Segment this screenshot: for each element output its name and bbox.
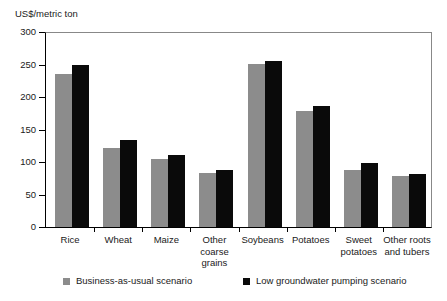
bar-business-as-usual [344, 170, 361, 227]
legend-label-low-groundwater-pumping: Low groundwater pumping scenario [256, 276, 407, 286]
bar-chart: US$/metric ton 050100150200250300 RiceWh… [0, 0, 447, 301]
y-axis-tick [39, 32, 45, 33]
y-axis-tick [39, 130, 45, 131]
bar-low-groundwater-pumping [72, 65, 89, 227]
bar-group [392, 32, 426, 227]
legend-swatch-icon-low-groundwater-pumping [243, 278, 250, 285]
y-axis-tick-label: 300 [3, 27, 36, 37]
y-axis-tick-label: 50 [3, 190, 36, 200]
bar-business-as-usual [392, 176, 409, 227]
bar-low-groundwater-pumping [120, 140, 137, 227]
x-axis-tick [190, 228, 191, 232]
bar-group [199, 32, 233, 227]
y-axis-tick [39, 65, 45, 66]
x-axis-tick [335, 228, 336, 232]
legend-label-business-as-usual: Business-as-usual scenario [76, 276, 192, 286]
y-axis-tick-label: 0 [3, 222, 36, 232]
bar-group [296, 32, 330, 227]
legend-swatch-icon-business-as-usual [63, 278, 70, 285]
bar-group [103, 32, 137, 227]
bar-business-as-usual [248, 64, 265, 227]
bar-low-groundwater-pumping [216, 170, 233, 227]
x-axis-label-line: and tubers [375, 246, 439, 258]
bar-low-groundwater-pumping [409, 174, 426, 227]
y-axis-tick-label: 150 [3, 125, 36, 135]
bar-group [344, 32, 378, 227]
bar-low-groundwater-pumping [168, 155, 185, 227]
bar-low-groundwater-pumping [313, 106, 330, 227]
bar-group [151, 32, 185, 227]
x-axis-tick [142, 228, 143, 232]
bar-group [248, 32, 282, 227]
bar-low-groundwater-pumping [361, 163, 378, 227]
chart-legend: Business-as-usual scenario Low groundwat… [0, 276, 447, 298]
bars-layer [46, 32, 431, 227]
y-axis-tick [39, 227, 45, 228]
x-axis-label-line: Other roots [375, 234, 439, 246]
y-axis-unit-label: US$/metric ton [15, 8, 78, 19]
y-axis-tick-label: 100 [3, 157, 36, 167]
x-axis-tick [94, 228, 95, 232]
bar-low-groundwater-pumping [265, 61, 282, 227]
x-axis-category-label: Other rootsand tubers [375, 234, 439, 257]
bar-business-as-usual [103, 148, 120, 227]
x-axis-tick [239, 228, 240, 232]
x-axis-tick [287, 228, 288, 232]
y-axis-tick [39, 195, 45, 196]
legend-item-business-as-usual: Business-as-usual scenario [63, 276, 192, 286]
x-axis-label-line: coarse [182, 246, 246, 258]
y-axis-tick-label: 250 [3, 60, 36, 70]
bar-business-as-usual [199, 173, 216, 227]
bar-group [55, 32, 89, 227]
bar-business-as-usual [55, 74, 72, 227]
bar-business-as-usual [296, 111, 313, 227]
bar-business-as-usual [151, 159, 168, 227]
y-axis-tick [39, 97, 45, 98]
x-axis-label-line: grains [182, 257, 246, 269]
y-axis-tick [39, 162, 45, 163]
legend-item-low-groundwater-pumping: Low groundwater pumping scenario [243, 276, 407, 286]
y-axis-tick-label: 200 [3, 92, 36, 102]
x-axis-tick [383, 228, 384, 232]
